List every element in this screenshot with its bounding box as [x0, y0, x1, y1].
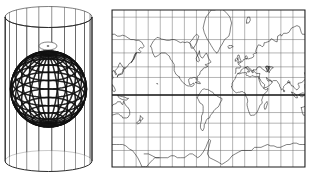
globe-group: [11, 42, 87, 127]
coastline-japan: [310, 68, 312, 77]
mercator-map-panel: [104, 0, 312, 179]
coastline-new_guinea: [311, 96, 312, 100]
cylinder-top-front-rim: [5, 17, 92, 28]
cylinder-bottom-back-rim: [5, 151, 92, 162]
projection-figure: Cylindrical map projection: [0, 0, 312, 179]
coastline-borneo: [106, 93, 111, 97]
globe-in-cylinder-svg: [0, 0, 104, 179]
globe-in-cylinder-panel: [0, 0, 104, 179]
cylinder-bottom-front-rim: [5, 161, 92, 172]
mercator-map-svg: [104, 0, 312, 179]
globe-pole-marker: [47, 45, 50, 46]
